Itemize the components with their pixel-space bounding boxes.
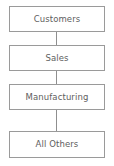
flowchart-connector-manufacturing-all-others bbox=[56, 110, 57, 131]
flowchart-connector-customers-sales bbox=[56, 32, 57, 45]
flowchart-node-manufacturing[interactable]: Manufacturing bbox=[9, 84, 105, 110]
flowchart-node-customers[interactable]: Customers bbox=[9, 6, 105, 32]
flowchart-diagram: Customers Sales Manufacturing All Others bbox=[0, 0, 114, 166]
flowchart-node-all-others[interactable]: All Others bbox=[9, 131, 105, 158]
flowchart-node-sales[interactable]: Sales bbox=[9, 45, 105, 71]
flowchart-node-label: All Others bbox=[36, 140, 79, 149]
flowchart-node-label: Customers bbox=[34, 15, 81, 24]
flowchart-node-label: Manufacturing bbox=[26, 93, 89, 102]
flowchart-node-label: Sales bbox=[45, 54, 68, 63]
flowchart-node-chain: Customers Sales Manufacturing All Others bbox=[0, 0, 114, 166]
flowchart-connector-sales-manufacturing bbox=[56, 71, 57, 84]
